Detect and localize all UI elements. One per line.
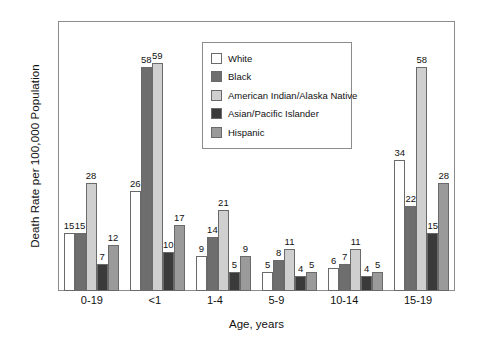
- bar[interactable]: 15: [427, 233, 438, 291]
- bar-value-label: 7: [99, 251, 104, 262]
- legend-swatch-icon: [211, 90, 222, 101]
- bar[interactable]: 15: [75, 233, 86, 291]
- x-axis-ticks: 0-19<11-45-910-1415-19: [58, 294, 455, 306]
- bar[interactable]: 21: [218, 210, 229, 291]
- bar[interactable]: 5: [306, 272, 317, 291]
- bar[interactable]: 28: [438, 183, 449, 291]
- bar[interactable]: 59: [152, 63, 163, 291]
- bar[interactable]: 17: [174, 225, 185, 291]
- bar-value-label: 9: [243, 243, 248, 254]
- bar[interactable]: 12: [108, 245, 119, 291]
- bar-value-label: 4: [364, 263, 369, 274]
- bar-value-label: 11: [351, 236, 361, 247]
- bar-value-label: 58: [141, 54, 152, 65]
- x-tick-label: 15-19: [404, 294, 432, 306]
- bar-group: 151528712: [64, 21, 119, 291]
- bar-value-label: 28: [86, 170, 97, 181]
- bar-value-label: 12: [108, 232, 119, 243]
- legend-swatch-icon: [211, 127, 222, 138]
- bar[interactable]: 5: [372, 272, 383, 291]
- legend-item[interactable]: American Indian/Alaska Native: [211, 86, 345, 105]
- bar[interactable]: 28: [86, 183, 97, 291]
- bar-value-label: 7: [342, 251, 347, 262]
- bar[interactable]: 58: [141, 67, 152, 291]
- bar-value-label: 5: [375, 259, 380, 270]
- bar[interactable]: 22: [405, 206, 416, 291]
- bar[interactable]: 10: [163, 252, 174, 291]
- legend: WhiteBlackAmerican Indian/Alaska NativeA…: [202, 42, 352, 149]
- x-tick-label: <1: [149, 294, 162, 306]
- bar-value-label: 11: [285, 236, 295, 247]
- bar[interactable]: 34: [394, 160, 405, 291]
- x-tick-label: 10-14: [330, 294, 358, 306]
- bar-value-label: 4: [298, 263, 303, 274]
- legend-item[interactable]: Asian/Pacific Islander: [211, 105, 345, 124]
- x-tick-label: 5-9: [269, 294, 285, 306]
- bar-value-label: 6: [331, 255, 336, 266]
- bar-value-label: 5: [309, 259, 314, 270]
- legend-label: White: [228, 53, 252, 64]
- bar[interactable]: 7: [97, 264, 108, 291]
- legend-swatch-icon: [211, 71, 222, 82]
- bar-value-label: 15: [428, 220, 439, 231]
- bar-value-label: 8: [276, 247, 281, 258]
- bar-value-label: 59: [152, 50, 163, 61]
- bar-value-label: 26: [130, 178, 141, 189]
- legend-label: Hispanic: [228, 127, 264, 138]
- bar-value-label: 15: [75, 220, 86, 231]
- legend-label: Black: [228, 71, 251, 82]
- bar[interactable]: 6: [328, 268, 339, 291]
- bar-value-label: 10: [163, 239, 174, 250]
- legend-item[interactable]: White: [211, 49, 345, 68]
- bar[interactable]: 9: [240, 256, 251, 291]
- bar[interactable]: 5: [229, 272, 240, 291]
- bar[interactable]: 4: [361, 276, 372, 291]
- legend-swatch-icon: [211, 108, 222, 119]
- bar-chart: Death Rate per 100,000 Population 010203…: [0, 0, 480, 341]
- bar-value-label: 15: [64, 220, 75, 231]
- x-tick-label: 0-19: [81, 294, 103, 306]
- bar-value-label: 5: [265, 259, 270, 270]
- bar-value-label: 9: [199, 243, 204, 254]
- x-axis-title: Age, years: [58, 318, 455, 330]
- x-tick-label: 1-4: [207, 294, 223, 306]
- bar[interactable]: 26: [130, 191, 141, 291]
- bar[interactable]: 4: [295, 276, 306, 291]
- legend-label: American Indian/Alaska Native: [228, 90, 357, 101]
- bar-value-label: 34: [395, 147, 406, 158]
- bar[interactable]: 11: [284, 249, 295, 291]
- legend-item[interactable]: Black: [211, 68, 345, 87]
- bar[interactable]: 7: [339, 264, 350, 291]
- bar[interactable]: 9: [196, 256, 207, 291]
- bar[interactable]: 11: [350, 249, 361, 291]
- bar-value-label: 5: [232, 259, 237, 270]
- bar[interactable]: 58: [416, 67, 427, 291]
- bar-value-label: 17: [174, 212, 185, 223]
- bar-value-label: 58: [417, 54, 428, 65]
- bar[interactable]: 8: [273, 260, 284, 291]
- bar[interactable]: 14: [207, 237, 218, 291]
- legend-swatch-icon: [211, 53, 222, 64]
- legend-label: Asian/Pacific Islander: [228, 108, 319, 119]
- bar-group: 2658591017: [130, 21, 185, 291]
- bar-value-label: 21: [218, 197, 229, 208]
- bar-group: 3422581528: [394, 21, 449, 291]
- bar-value-label: 14: [207, 224, 218, 235]
- bar-value-label: 28: [439, 170, 450, 181]
- bar[interactable]: 5: [262, 272, 273, 291]
- legend-item[interactable]: Hispanic: [211, 123, 345, 142]
- bar[interactable]: 15: [64, 233, 75, 291]
- bar-value-label: 22: [406, 193, 417, 204]
